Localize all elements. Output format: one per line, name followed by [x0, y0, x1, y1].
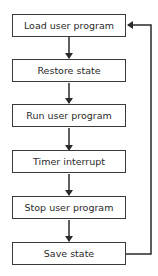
- step-label: Load user program: [24, 20, 114, 31]
- step-save-state: Save state: [12, 242, 126, 265]
- flowchart-diagram: Load user program Restore state Run user…: [0, 0, 158, 276]
- step-label: Restore state: [37, 65, 100, 76]
- step-load-user-program: Load user program: [12, 14, 126, 37]
- step-label: Save state: [44, 248, 94, 259]
- arrow-loop-back: [126, 25, 151, 254]
- step-timer-interrupt: Timer interrupt: [12, 150, 126, 173]
- step-run-user-program: Run user program: [12, 104, 126, 127]
- step-label: Timer interrupt: [33, 156, 105, 167]
- step-stop-user-program: Stop user program: [12, 196, 126, 219]
- step-label: Stop user program: [25, 202, 114, 213]
- step-label: Run user program: [26, 110, 112, 121]
- connector-arrows: [0, 0, 158, 276]
- step-restore-state: Restore state: [12, 59, 126, 82]
